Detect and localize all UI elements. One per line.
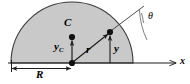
theta-arc [142,13,144,23]
label-radius: R [36,69,43,80]
semicircle-centroid-figure: C yC r y R x θ [0,0,190,84]
theta-arc-outer [140,10,148,40]
label-centroid-distance-subscript: C [59,46,64,53]
ray-extension [112,6,144,30]
centroid-point [69,34,75,40]
label-x-axis: x [180,56,185,66]
origin-point [69,60,75,66]
figure-canvas [0,0,190,84]
label-element-ordinate: y [114,43,119,54]
element-point [107,29,113,35]
label-radial-vector: r [86,44,90,55]
label-angle-theta: θ [148,11,153,21]
label-centroid: C [64,17,71,28]
label-centroid-distance: yC [54,41,63,53]
